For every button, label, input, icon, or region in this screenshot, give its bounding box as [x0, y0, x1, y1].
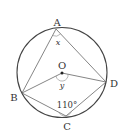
angle-label-c: 110°: [57, 100, 77, 110]
label-d: D: [110, 78, 118, 89]
label-b: B: [10, 92, 17, 103]
label-a: A: [52, 17, 61, 28]
angle-label-x: x: [56, 38, 61, 47]
center-point-o: [61, 72, 64, 75]
label-o: O: [58, 60, 66, 71]
geometry-diagram: A B C D O x y 110°: [0, 0, 122, 136]
angle-arc-a: [53, 34, 61, 36]
angle-label-y: y: [59, 81, 65, 90]
segment-ad: [56, 29, 106, 82]
segment-ab: [22, 29, 56, 93]
segment-od: [62, 73, 106, 82]
label-c: C: [63, 121, 71, 132]
